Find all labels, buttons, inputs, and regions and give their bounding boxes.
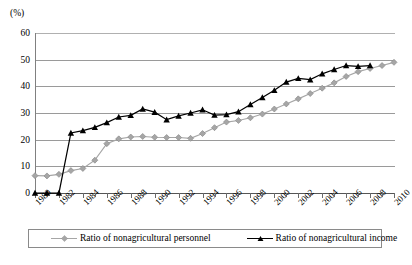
legend-label-income: Ratio of nonagricultural income xyxy=(276,233,398,244)
x-axis-tick xyxy=(310,193,311,197)
x-axis-tick xyxy=(191,193,192,197)
triangle-glyph-icon xyxy=(257,235,264,242)
gridline xyxy=(36,113,395,114)
x-axis-tick xyxy=(382,193,383,197)
y-axis-tick-label: 60 xyxy=(6,28,30,38)
triangle-marker-icon xyxy=(247,233,273,244)
legend-entry-personnel: Ratio of nonagricultural personnel xyxy=(51,233,211,244)
x-axis-tick xyxy=(95,193,96,197)
diamond-glyph-icon xyxy=(61,235,68,242)
x-axis-tick xyxy=(215,193,216,197)
x-axis-tick xyxy=(358,193,359,197)
x-axis-tick xyxy=(167,193,168,197)
y-axis-tick-label: 0 xyxy=(6,188,30,198)
x-axis-tick xyxy=(238,193,239,197)
x-axis-tick xyxy=(71,193,72,197)
gridline xyxy=(36,140,395,141)
x-axis-tick xyxy=(262,193,263,197)
gridline xyxy=(36,86,395,87)
x-axis-tick xyxy=(47,193,48,197)
diamond-marker-icon xyxy=(51,233,77,244)
legend-label-personnel: Ratio of nonagricultural personnel xyxy=(80,233,211,244)
x-axis-tick xyxy=(143,193,144,197)
y-axis-tick-label: 40 xyxy=(6,81,30,91)
y-axis-tick-label: 50 xyxy=(6,55,30,65)
y-axis-unit-label: (%) xyxy=(10,8,24,19)
y-axis-tick-label: 20 xyxy=(6,135,30,145)
y-axis-tick-label: 10 xyxy=(6,161,30,171)
gridline xyxy=(36,166,395,167)
plot-area xyxy=(35,33,395,194)
x-axis-tick xyxy=(119,193,120,197)
x-axis-tick xyxy=(286,193,287,197)
y-axis-tick-label: 30 xyxy=(6,108,30,118)
chart-legend: Ratio of nonagricultural personnel Ratio… xyxy=(28,229,382,248)
legend-entry-income: Ratio of nonagricultural income xyxy=(247,233,398,244)
x-axis-tick xyxy=(334,193,335,197)
gridline xyxy=(36,60,395,61)
gridline xyxy=(36,33,395,34)
